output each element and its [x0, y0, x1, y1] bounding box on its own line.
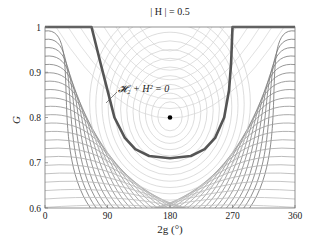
y-tick-label: 0.8 — [29, 113, 41, 123]
x-tick-label: 270 — [225, 211, 240, 221]
x-axis-label: 2g (°) — [157, 223, 183, 236]
equilibrium-point — [168, 115, 173, 120]
contour-chart: 090180270360 0.60.70.80.91 𝓗₂ + H² = 0 |… — [0, 0, 314, 250]
inner-contour-lines — [56, 6, 284, 200]
y-tick-label: 0.6 — [29, 204, 41, 214]
y-tick-label: 0.9 — [29, 68, 41, 78]
separatrix-curve — [45, 27, 295, 158]
y-tick-label: 1 — [36, 23, 41, 33]
x-tick-label: 0 — [43, 211, 48, 221]
y-tick-label: 0.7 — [29, 158, 41, 168]
separatrix-annotation: 𝓗₂ + H² = 0 — [118, 83, 169, 94]
x-tick-label: 90 — [103, 211, 113, 221]
outer-contour-lines — [45, 31, 295, 241]
x-tick-label: 360 — [288, 211, 303, 221]
x-tick-label: 180 — [163, 211, 178, 221]
h-level-annotation: | H | = 0.5 — [150, 6, 189, 17]
y-axis-label: G — [10, 116, 22, 124]
